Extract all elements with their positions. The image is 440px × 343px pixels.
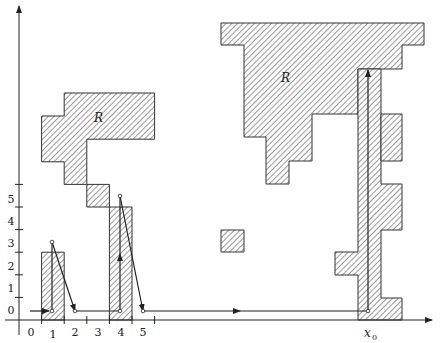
y-tick-label-5: 5 <box>8 193 15 206</box>
x-tick-label-4: 4 <box>118 326 125 339</box>
x0-label-subscript: 0 <box>372 333 377 342</box>
path-point <box>50 309 54 313</box>
region-label-right-R: R <box>280 71 290 85</box>
region-right-tab <box>381 114 402 161</box>
shaded-regions <box>42 23 424 320</box>
x-tick-label-1: 1 <box>50 328 57 341</box>
y-tick-label-3: 3 <box>8 237 15 250</box>
y-tick-label-0: 0 <box>8 304 15 317</box>
path-points <box>50 194 370 313</box>
region-small-square <box>221 230 244 252</box>
x-tick-label-5: 5 <box>140 326 147 339</box>
lattice-path-diagram: 0 1 2 3 4 5 x 0 0 1 2 3 4 5 R R <box>0 0 440 343</box>
region-left-R <box>42 93 155 184</box>
x-tick-labels: 0 1 2 3 4 5 <box>28 326 147 341</box>
path-point <box>118 309 122 313</box>
y-tick-label-2: 2 <box>8 260 15 273</box>
x0-label-main: x <box>364 326 371 340</box>
path-point <box>50 240 54 244</box>
y-tick-label-4: 4 <box>8 215 15 228</box>
x-tick-label-3: 3 <box>95 326 102 339</box>
x0-label: x 0 <box>364 326 377 342</box>
y-tick-label-1: 1 <box>8 282 15 295</box>
path-point <box>118 194 122 198</box>
path-point <box>73 309 77 313</box>
x-tick-label-0: 0 <box>28 326 35 339</box>
x-tick-label-2: 2 <box>72 326 79 339</box>
y-tick-labels: 0 1 2 3 4 5 <box>8 193 15 317</box>
path-point <box>366 309 370 313</box>
region-mid-column <box>109 207 132 320</box>
region-label-left-R: R <box>93 111 103 125</box>
path-point <box>141 309 145 313</box>
region-step <box>87 184 110 207</box>
